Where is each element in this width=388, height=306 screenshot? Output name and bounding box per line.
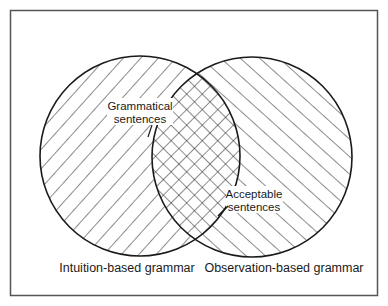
acceptable-label-line2: sentences [228, 201, 281, 213]
acceptable-label-line1: Acceptable [226, 188, 283, 200]
observation-set-label: Observation-based grammar [204, 261, 363, 275]
grammatical-label-line1: Grammatical [107, 100, 172, 112]
intuition-set-label: Intuition-based grammar [59, 261, 194, 275]
venn-diagram: Grammatical sentences Acceptable sentenc… [0, 0, 388, 306]
grammatical-label-line2: sentences [114, 113, 167, 125]
